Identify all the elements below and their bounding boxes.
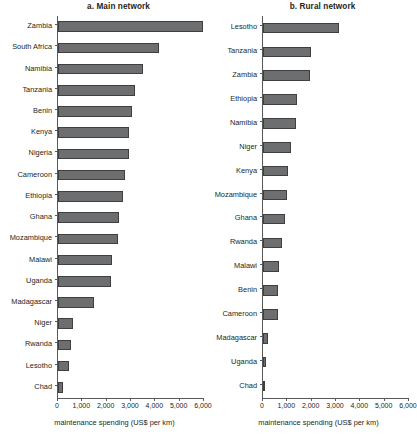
bar-row: Ethiopia xyxy=(262,88,408,112)
plot-area-rural-network: LesothoTanzaniaZambiaEthiopiaNamibiaNige… xyxy=(262,16,408,398)
x-axis-tick xyxy=(311,398,312,401)
bar-row: Benin xyxy=(262,279,408,303)
bar xyxy=(58,191,123,202)
category-label: Ghana xyxy=(235,213,257,223)
category-label: Tanzania xyxy=(22,85,52,95)
category-label: Cameroon xyxy=(17,170,52,180)
bar xyxy=(58,64,143,75)
bar xyxy=(263,70,310,81)
bar xyxy=(58,382,63,393)
x-axis-tick xyxy=(203,398,204,401)
category-label: Rwanda xyxy=(230,237,257,247)
bar-row: Rwanda xyxy=(262,231,408,255)
bar xyxy=(263,190,287,201)
category-label: Kenya xyxy=(236,166,257,176)
bar-row: Zambia xyxy=(262,64,408,88)
category-label: Tanzania xyxy=(227,46,257,56)
category-label: Lesotho xyxy=(231,22,257,32)
bar-row: Cameroon xyxy=(57,165,203,186)
panel-main-network: a. Main network ZambiaSouth AfricaNamibi… xyxy=(0,0,207,440)
category-label: Namibia xyxy=(25,64,52,74)
x-axis-tick-label: 4,000 xyxy=(351,402,369,409)
bar-row: Uganda xyxy=(57,271,203,292)
category-label: Benin xyxy=(33,106,52,116)
bar xyxy=(58,85,135,96)
category-label: Ethiopia xyxy=(25,191,52,201)
x-axis-tick xyxy=(408,398,409,401)
bar xyxy=(263,214,285,225)
category-label: Benin xyxy=(238,285,257,295)
x-axis-tick xyxy=(384,398,385,401)
bar xyxy=(263,285,278,296)
bar-row: Chad xyxy=(57,377,203,398)
bar xyxy=(263,309,278,320)
bar xyxy=(263,381,265,392)
x-axis-tick xyxy=(130,398,131,401)
bar-row: Kenya xyxy=(262,159,408,183)
x-axis-tick-label: 5,000 xyxy=(170,402,188,409)
category-label: Zambia xyxy=(27,21,52,31)
bar-row: Madagascar xyxy=(57,292,203,313)
category-label: Kenya xyxy=(31,127,52,137)
x-axis-tick xyxy=(359,398,360,401)
bar xyxy=(263,118,296,129)
bar-row: Niger xyxy=(57,313,203,334)
x-axis-tick-label: 6,000 xyxy=(399,402,417,409)
bar xyxy=(263,238,282,249)
category-label: Uganda xyxy=(26,276,52,286)
bar-row: Uganda xyxy=(262,350,408,374)
bar xyxy=(263,261,279,272)
category-label: Zambia xyxy=(232,70,257,80)
bar-row: Benin xyxy=(57,101,203,122)
category-label: Niger xyxy=(34,318,52,328)
bar-row: Tanzania xyxy=(262,40,408,64)
x-axis-tick xyxy=(154,398,155,401)
bar xyxy=(58,234,118,245)
bar xyxy=(58,170,125,181)
bar xyxy=(58,127,129,138)
bar-row: Mozambique xyxy=(57,228,203,249)
panel-rural-network: b. Rural network LesothoTanzaniaZambiaEt… xyxy=(207,0,414,440)
category-label: Nigeria xyxy=(29,148,52,158)
x-axis-tick xyxy=(286,398,287,401)
bar xyxy=(58,43,159,54)
category-label: Mozambique xyxy=(215,190,257,200)
bar-row: Malawi xyxy=(57,249,203,270)
x-axis-tick xyxy=(57,398,58,401)
category-label: Cameroon xyxy=(222,309,257,319)
category-label: Ethiopia xyxy=(230,94,257,104)
bar-row: Ghana xyxy=(57,207,203,228)
x-axis-tick-label: 0 xyxy=(55,402,59,409)
bar-row: Ethiopia xyxy=(57,186,203,207)
bar-row: Tanzania xyxy=(57,80,203,101)
x-axis-tick-label: 3,000 xyxy=(326,402,344,409)
bar-row: Lesotho xyxy=(262,16,408,40)
x-axis-tick xyxy=(106,398,107,401)
bar-row: Lesotho xyxy=(57,356,203,377)
bar-row: Madagascar xyxy=(262,326,408,350)
bar xyxy=(58,212,119,223)
bar xyxy=(58,318,73,329)
bar-row: Namibia xyxy=(57,58,203,79)
bar-row: Rwanda xyxy=(57,334,203,355)
bar-row: Niger xyxy=(262,135,408,159)
bar xyxy=(263,94,297,105)
x-axis-tick-label: 5,000 xyxy=(375,402,393,409)
bar xyxy=(58,276,111,287)
bar-row: Chad xyxy=(262,374,408,398)
category-label: Chad xyxy=(239,381,257,391)
bar-row: Cameroon xyxy=(262,303,408,327)
x-axis-tick-label: 0 xyxy=(260,402,264,409)
bar xyxy=(263,47,311,58)
category-label: Uganda xyxy=(231,357,257,367)
bar xyxy=(58,106,132,117)
panel-title-rural-network: b. Rural network xyxy=(207,2,414,11)
x-axis-title-rural: maintenance spending (US$ per km) xyxy=(207,418,414,427)
bar-row: South Africa xyxy=(57,37,203,58)
bar-row: Mozambique xyxy=(262,183,408,207)
bar-row: Namibia xyxy=(262,112,408,136)
bar xyxy=(263,333,268,344)
x-axis-tick xyxy=(179,398,180,401)
panel-title-main-network: a. Main network xyxy=(0,2,207,11)
